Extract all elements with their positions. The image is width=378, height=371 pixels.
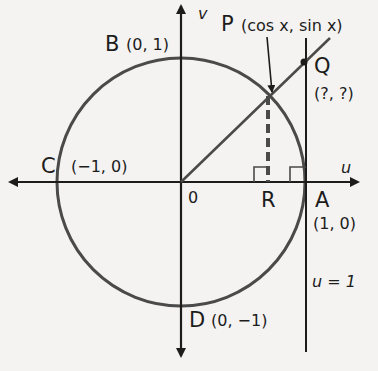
point-R-name: R [261, 190, 276, 211]
point-D-name: D [189, 310, 205, 331]
point-Q-name: Q [314, 56, 331, 77]
point-D-coords: (0, −1) [211, 313, 267, 329]
point-P-name: P [221, 14, 234, 35]
u-axis-label: u [341, 160, 351, 176]
line-u-equals-1-label: u = 1 [312, 274, 356, 290]
unit-circle-diagram: v u 0 P (cos x, sin x) Q (?, ?) B (0, 1)… [0, 0, 378, 371]
point-P-coords: (cos x, sin x) [241, 18, 343, 34]
point-A-coords: (1, 0) [313, 216, 356, 232]
origin-label: 0 [188, 190, 198, 206]
v-axis-label: v [198, 6, 207, 22]
pointer-arrow-P [267, 37, 272, 92]
point-B-coords: (0, 1) [126, 37, 169, 53]
point-C-coords: (−1, 0) [71, 159, 127, 175]
point-Q-dot [301, 59, 308, 66]
point-C-name: C [41, 156, 56, 177]
right-angle-R [254, 167, 268, 182]
point-B-name: B [105, 34, 119, 55]
point-Q-coords: (?, ?) [314, 86, 354, 102]
point-A-name: A [315, 190, 329, 211]
